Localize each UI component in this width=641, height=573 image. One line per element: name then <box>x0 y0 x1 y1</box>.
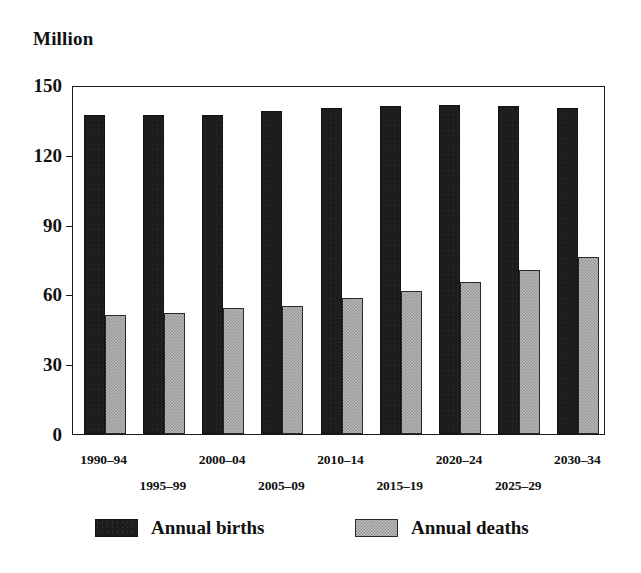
bar-annual-births <box>261 111 282 434</box>
bar-annual-deaths <box>164 313 185 434</box>
bar-group <box>557 87 599 434</box>
x-axis-tick-label: 2020–24 <box>436 452 483 468</box>
plot-area <box>72 86 605 435</box>
y-axis-tick-label: 0 <box>2 424 62 446</box>
y-axis-tick-label: 150 <box>2 75 62 97</box>
bar-annual-deaths <box>460 282 481 434</box>
bar-annual-deaths <box>519 270 540 434</box>
x-axis-tick-label: 2010–14 <box>317 452 364 468</box>
x-axis-tick-label: 2030–34 <box>554 452 601 468</box>
bar-annual-deaths <box>342 298 363 434</box>
bar-annual-births <box>439 105 460 434</box>
chart-legend: Annual births Annual deaths <box>0 515 641 549</box>
bar-annual-births <box>498 106 519 434</box>
bar-annual-deaths <box>105 315 126 434</box>
chart-figure: Million 0306090120150 1990–941995–992000… <box>0 0 641 573</box>
bars-layer <box>73 87 604 434</box>
bar-group <box>143 87 185 434</box>
bar-group <box>261 87 303 434</box>
bar-annual-births <box>84 115 105 434</box>
legend-swatch-annual-deaths <box>355 519 398 537</box>
bar-annual-births <box>557 108 578 434</box>
y-axis-tick-label: 120 <box>2 145 62 167</box>
bar-annual-deaths <box>578 257 599 434</box>
bar-group <box>84 87 126 434</box>
legend-label-annual-deaths: Annual deaths <box>411 517 529 539</box>
x-axis-tick-label: 1995–99 <box>140 478 187 494</box>
bar-annual-deaths <box>282 306 303 434</box>
bar-group <box>202 87 244 434</box>
bar-annual-deaths <box>223 308 244 434</box>
legend-item-annual-births: Annual births <box>95 515 265 541</box>
y-axis-unit-label: Million <box>33 28 94 50</box>
bar-group <box>380 87 422 434</box>
legend-label-annual-births: Annual births <box>151 517 265 539</box>
bar-annual-births <box>143 115 164 434</box>
x-axis-tick-label: 2005–09 <box>258 478 305 494</box>
x-axis-tick-label: 2025–29 <box>495 478 542 494</box>
legend-item-annual-deaths: Annual deaths <box>355 515 529 541</box>
bar-group <box>321 87 363 434</box>
y-axis-tick-label: 90 <box>2 215 62 237</box>
bar-group <box>498 87 540 434</box>
bar-annual-births <box>380 106 401 434</box>
y-axis-tick-label: 30 <box>2 354 62 376</box>
bar-annual-births <box>202 115 223 434</box>
x-axis-tick-label: 2015–19 <box>376 478 423 494</box>
legend-swatch-annual-births <box>95 519 138 537</box>
bar-group <box>439 87 481 434</box>
y-axis-tick-label: 60 <box>2 284 62 306</box>
x-axis-tick-label: 2000–04 <box>199 452 246 468</box>
bar-annual-deaths <box>401 291 422 434</box>
bar-annual-births <box>321 108 342 434</box>
x-axis-tick-label: 1990–94 <box>80 452 127 468</box>
